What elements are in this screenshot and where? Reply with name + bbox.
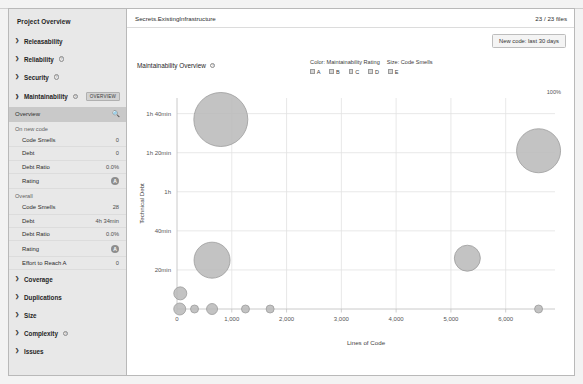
metric-row[interactable]: Rating A — [9, 174, 126, 189]
app-window: Project Overview ❯ Releasability ❯ Relia… — [0, 0, 583, 384]
rating-badge: A — [111, 245, 119, 253]
legend-swatch-icon — [349, 69, 354, 74]
legend-size-title: Size: Code Smells — [387, 59, 433, 65]
sidebar-group-maintainability[interactable]: ❱ Maintainability ? OVERVIEW — [9, 86, 126, 107]
svg-text:0: 0 — [175, 316, 179, 322]
svg-text:1,000: 1,000 — [224, 316, 240, 322]
metric-label: Debt Ratio — [22, 164, 50, 170]
chevron-right-icon: ❯ — [15, 74, 20, 79]
metric-row[interactable]: Code Smells 0 — [9, 134, 126, 147]
legend-color-title: Color: Maintainability Rating — [310, 59, 380, 65]
sidebar-group-label: Size — [24, 312, 37, 319]
new-code-bar: New code: last 30 days — [127, 28, 575, 54]
chart-plot-area: 100% 20min40min1h1h 20min1h 40min01,0002… — [135, 84, 567, 375]
sidebar-title: Project Overview — [9, 9, 126, 32]
metric-label: Debt Ratio — [22, 231, 50, 237]
chart-legend: Color: Maintainability Rating Size: Code… — [310, 57, 432, 75]
chevron-right-icon: ❯ — [15, 38, 20, 43]
chevron-right-icon: ❯ — [15, 348, 20, 353]
rating-badge: A — [111, 177, 119, 185]
corner-percent-label: 100% — [547, 89, 561, 95]
help-icon[interactable]: ? — [59, 56, 64, 61]
breadcrumb-bar: Secrets.ExistingInfrastructure 23 / 23 f… — [127, 9, 575, 28]
metric-label: Rating — [22, 246, 39, 252]
sidebar-group-security[interactable]: ❯ Security ? — [9, 68, 126, 86]
app-frame: Project Overview ❯ Releasability ❯ Relia… — [8, 8, 575, 376]
metric-row[interactable]: Effort to Reach A 0 — [9, 257, 126, 270]
svg-text:2,000: 2,000 — [279, 316, 295, 322]
metric-row[interactable]: Debt 0 — [9, 147, 126, 160]
legend-item-a[interactable]: A — [310, 69, 320, 75]
legend-swatch-icon — [329, 69, 334, 74]
svg-text:6,000: 6,000 — [498, 316, 514, 322]
chevron-right-icon: ❯ — [15, 294, 20, 299]
svg-text:1h 40min: 1h 40min — [146, 111, 171, 117]
breadcrumb[interactable]: Secrets.ExistingInfrastructure — [135, 15, 216, 22]
help-icon[interactable]: ? — [73, 94, 78, 99]
sidebar-group-label: Security — [24, 74, 49, 81]
metric-value: 0.0% — [106, 231, 119, 237]
sidebar-group-coverage[interactable]: ❯ Coverage — [9, 270, 126, 288]
metric-row[interactable]: Debt Ratio 0.0% — [9, 228, 126, 241]
sidebar-group-label: Releasability — [24, 38, 63, 45]
legend-item-c[interactable]: C — [349, 69, 360, 75]
chevron-right-icon: ❯ — [15, 276, 20, 281]
sidebar-group-label: Reliability — [24, 56, 54, 63]
new-code-period-button[interactable]: New code: last 30 days — [492, 34, 566, 48]
sidebar-group-reliability[interactable]: ❯ Reliability ? — [9, 50, 126, 68]
section-label-overall: Overall — [9, 189, 126, 201]
metric-value: 0.0% — [106, 164, 119, 170]
sidebar-group-issues[interactable]: ❯ Issues — [9, 342, 126, 360]
legend-label: D — [375, 69, 379, 75]
legend-label: E — [395, 69, 399, 75]
sidebar-item-overview[interactable]: Overview 🔍 — [9, 107, 126, 122]
help-icon[interactable]: ? — [210, 63, 215, 68]
legend-swatch-icon — [388, 69, 393, 74]
metric-row[interactable]: Code Smells 28 — [9, 201, 126, 214]
bubble-chart-svg[interactable]: 20min40min1h1h 20min1h 40min01,0002,0003… — [135, 84, 567, 349]
svg-text:5,000: 5,000 — [443, 316, 459, 322]
chart-title-wrap: Maintainability Overview ? — [137, 57, 215, 69]
legend-swatch-icon — [310, 69, 315, 74]
metric-row[interactable]: Debt Ratio 0.0% — [9, 161, 126, 174]
svg-text:1h: 1h — [164, 189, 171, 195]
chevron-right-icon: ❯ — [15, 56, 20, 61]
metric-label: Debt — [22, 150, 34, 156]
help-icon[interactable]: ? — [54, 74, 59, 79]
sidebar-group-size[interactable]: ❯ Size — [9, 306, 126, 324]
sidebar-group-label: Coverage — [24, 276, 53, 283]
metric-value: 4h 34min — [96, 218, 119, 224]
main-content: Secrets.ExistingInfrastructure 23 / 23 f… — [127, 9, 575, 375]
metric-value: 0 — [116, 137, 119, 143]
legend-item-d[interactable]: D — [368, 69, 379, 75]
sidebar-group-releasability[interactable]: ❯ Releasability — [9, 32, 126, 50]
legend-swatch-icon — [368, 69, 373, 74]
help-icon[interactable]: ? — [63, 331, 68, 336]
metric-label: Code Smells — [22, 204, 55, 210]
metric-label: Effort to Reach A — [22, 260, 66, 266]
svg-text:Technical Debt: Technical Debt — [138, 183, 145, 224]
svg-text:4,000: 4,000 — [389, 316, 405, 322]
sidebar: Project Overview ❯ Releasability ❯ Relia… — [9, 9, 127, 375]
overview-badge[interactable]: OVERVIEW — [86, 92, 120, 102]
chevron-right-icon: ❯ — [15, 330, 20, 335]
file-count-label: 23 / 23 files — [535, 15, 567, 22]
sidebar-group-duplications[interactable]: ❯ Duplications — [9, 288, 126, 306]
chevron-down-icon: ❱ — [15, 94, 20, 99]
legend-headings: Color: Maintainability Rating Size: Code… — [310, 59, 432, 65]
metric-value: 0 — [116, 260, 119, 266]
legend-label: A — [317, 69, 321, 75]
magnifier-icon[interactable]: 🔍 — [112, 110, 120, 118]
svg-text:1h 20min: 1h 20min — [146, 150, 171, 156]
legend-label: C — [355, 69, 359, 75]
legend-item-e[interactable]: E — [388, 69, 398, 75]
metric-value: 0 — [116, 150, 119, 156]
metric-row[interactable]: Debt 4h 34min — [9, 215, 126, 228]
sidebar-group-complexity[interactable]: ❯ Complexity ? — [9, 324, 126, 342]
svg-text:40min: 40min — [155, 228, 171, 234]
sidebar-group-label: Complexity — [24, 330, 58, 337]
legend-item-b[interactable]: B — [329, 69, 339, 75]
svg-text:3,000: 3,000 — [334, 316, 350, 322]
metric-row[interactable]: Rating A — [9, 241, 126, 256]
metric-value: 28 — [113, 204, 119, 210]
